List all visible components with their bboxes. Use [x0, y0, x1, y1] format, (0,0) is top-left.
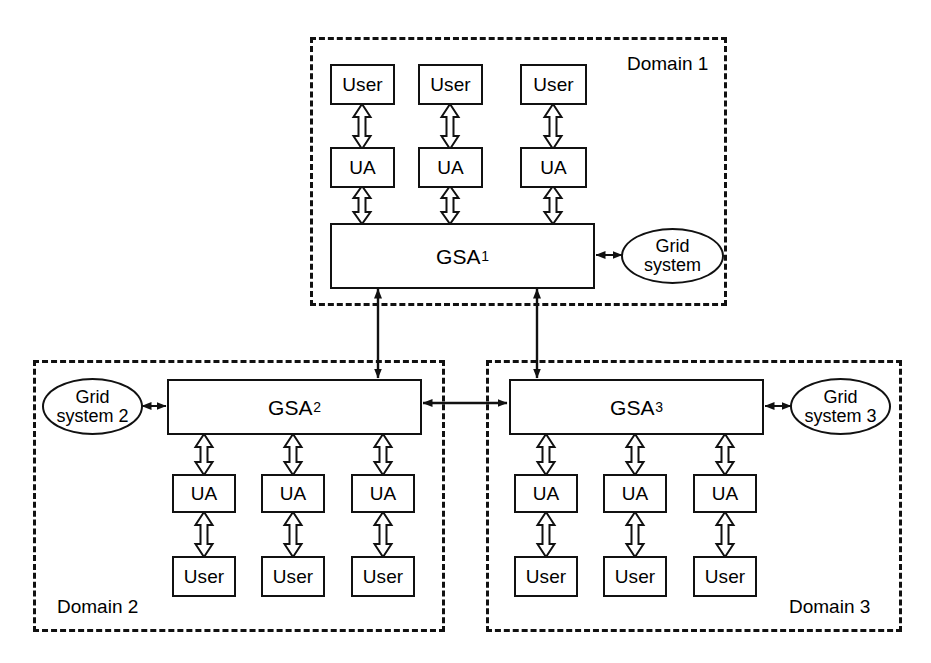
user-box[interactable]: User	[520, 64, 587, 105]
domain-label-domain3: Domain 3	[789, 596, 870, 618]
user-agent-box[interactable]: UA	[330, 147, 395, 188]
gsa-box-domain2[interactable]: GSA2	[167, 379, 422, 435]
user-box[interactable]: User	[514, 556, 578, 597]
grid-system-label: Grid system	[644, 237, 701, 275]
user-agent-box[interactable]: UA	[520, 147, 587, 188]
grid-system-ellipse-domain2[interactable]: Grid system 2	[42, 378, 143, 435]
gsa-label: GSA	[436, 246, 481, 267]
user-box[interactable]: User	[330, 64, 395, 105]
domain-label-domain2: Domain 2	[57, 596, 138, 618]
gsa-box-domain1[interactable]: GSA1	[330, 223, 595, 289]
diagram-canvas: User User User UA UA UA GSA1 Grid system…	[0, 0, 931, 663]
gsa-subscript: 1	[481, 249, 489, 263]
user-agent-box[interactable]: UA	[514, 474, 578, 513]
grid-system-line1: Grid	[75, 387, 109, 407]
grid-system-line1: Grid	[823, 387, 857, 407]
gsa-subscript: 3	[655, 400, 663, 414]
user-agent-box[interactable]: UA	[693, 474, 757, 513]
user-box[interactable]: User	[172, 556, 236, 597]
gsa-box-domain3[interactable]: GSA3	[509, 379, 764, 435]
grid-system-line2: system 2	[56, 406, 128, 426]
user-agent-box[interactable]: UA	[418, 147, 483, 188]
user-agent-box[interactable]: UA	[261, 474, 325, 513]
grid-system-line2: system 3	[804, 406, 876, 426]
user-box[interactable]: User	[418, 64, 483, 105]
grid-system-line1: Grid	[655, 236, 689, 256]
grid-system-label: Grid system 2	[56, 388, 128, 426]
user-agent-box[interactable]: UA	[351, 474, 415, 513]
user-agent-box[interactable]: UA	[172, 474, 236, 513]
gsa-label: GSA	[268, 397, 313, 418]
user-box[interactable]: User	[261, 556, 325, 597]
user-box[interactable]: User	[693, 556, 757, 597]
user-agent-box[interactable]: UA	[603, 474, 667, 513]
grid-system-label: Grid system 3	[804, 388, 876, 426]
grid-system-line2: system	[644, 255, 701, 275]
grid-system-ellipse-domain3[interactable]: Grid system 3	[790, 378, 891, 435]
gsa-subscript: 2	[313, 400, 321, 414]
domain-label-domain1: Domain 1	[627, 53, 708, 75]
user-box[interactable]: User	[351, 556, 415, 597]
grid-system-ellipse-domain1[interactable]: Grid system	[621, 228, 724, 284]
gsa-label: GSA	[610, 397, 655, 418]
user-box[interactable]: User	[603, 556, 667, 597]
